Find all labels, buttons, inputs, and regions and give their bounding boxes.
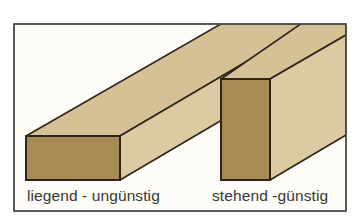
lying-label: liegend - ungünstig (27, 187, 160, 205)
standing-label: stehend -günstig (212, 187, 328, 205)
